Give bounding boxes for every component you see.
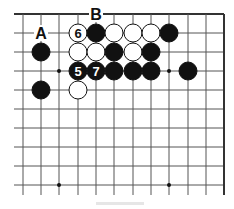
black-stone	[142, 62, 160, 80]
black-stone	[124, 62, 142, 80]
white-stone	[87, 43, 105, 61]
white-stone	[69, 81, 87, 99]
black-stone-circle	[179, 62, 197, 80]
black-stone	[179, 62, 197, 80]
black-stone-circle	[105, 43, 123, 61]
move-number: 6	[74, 26, 81, 41]
black-stone-circle	[87, 24, 105, 42]
white-stone	[124, 43, 142, 61]
black-stone	[105, 43, 123, 61]
star-point	[57, 183, 61, 187]
black-stone-circle	[142, 62, 160, 80]
black-stone-circle	[32, 81, 50, 99]
white-stone-circle	[69, 43, 87, 61]
white-stone	[142, 24, 160, 42]
white-stone	[105, 24, 123, 42]
black-stone-circle	[124, 62, 142, 80]
move-number: 7	[92, 64, 99, 79]
black-stone	[105, 62, 123, 80]
black-stone	[32, 43, 50, 61]
white-stone: 6	[69, 24, 87, 42]
white-stone-circle	[142, 24, 160, 42]
white-stone	[69, 43, 87, 61]
white-stone-circle	[124, 24, 142, 42]
white-stone-circle	[105, 24, 123, 42]
black-stone	[160, 24, 178, 42]
black-stone: 5	[69, 62, 87, 80]
move-number: 5	[74, 64, 81, 79]
black-stone-circle	[142, 43, 160, 61]
star-point	[167, 183, 171, 187]
white-stone-circle	[124, 43, 142, 61]
white-stone-circle	[87, 43, 105, 61]
black-stone-circle	[32, 43, 50, 61]
star-point	[57, 69, 61, 73]
diagram-caption	[96, 202, 144, 205]
white-stone-circle	[69, 81, 87, 99]
black-stone-circle	[105, 62, 123, 80]
black-stone	[142, 43, 160, 61]
go-board: 657 AB	[0, 0, 234, 209]
point-label-b: B	[90, 6, 102, 23]
black-stone	[32, 81, 50, 99]
black-stone: 7	[87, 62, 105, 80]
point-label-a: A	[35, 25, 47, 42]
black-stone	[87, 24, 105, 42]
black-stone-circle	[160, 24, 178, 42]
white-stone	[124, 24, 142, 42]
star-point	[167, 69, 171, 73]
